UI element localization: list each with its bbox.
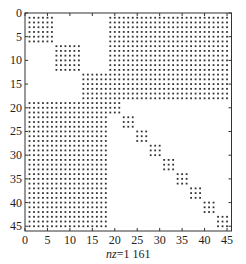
xlabel-prefix: nz bbox=[106, 247, 117, 261]
x-axis-label: nz=1 161 bbox=[106, 247, 150, 261]
x-tick-label: 45 bbox=[221, 233, 233, 247]
y-tick-label: 35 bbox=[10, 172, 22, 186]
y-tick-label: 10 bbox=[10, 53, 22, 67]
y-tick-label: 40 bbox=[10, 196, 22, 210]
border-top-right bbox=[109, 17, 228, 99]
y-tick-label: 15 bbox=[10, 77, 22, 91]
small-diag-7 bbox=[190, 187, 201, 198]
y-tick-label: 25 bbox=[10, 124, 22, 138]
diag-block-2 bbox=[56, 45, 80, 71]
small-diag-4 bbox=[150, 145, 161, 156]
y-tick-label: 45 bbox=[10, 219, 22, 233]
x-tick-label: 15 bbox=[86, 233, 98, 247]
small-diag-2 bbox=[123, 116, 134, 127]
diag-block-3 bbox=[82, 74, 106, 99]
x-tick-label: 5 bbox=[44, 233, 50, 247]
y-tick-label: 20 bbox=[10, 101, 22, 115]
y-tick-label: 30 bbox=[10, 148, 22, 162]
small-diag-6 bbox=[177, 173, 188, 184]
x-tick-label: 10 bbox=[64, 233, 76, 247]
x-tick-label: 40 bbox=[199, 233, 211, 247]
x-tick-label: 25 bbox=[131, 233, 143, 247]
x-tick-label: 20 bbox=[109, 233, 121, 247]
xlabel-value: =1 161 bbox=[117, 247, 151, 261]
x-axis: 051015202530354045 bbox=[22, 13, 233, 247]
diag-block-1 bbox=[29, 17, 53, 42]
small-diag-3 bbox=[136, 131, 147, 142]
x-tick-label: 30 bbox=[154, 233, 166, 247]
sparsity-plot: 051015202530354045 051015202530354045 nz… bbox=[0, 0, 246, 264]
small-diag-1 bbox=[109, 102, 120, 113]
y-axis: 051015202530354045 bbox=[10, 6, 232, 233]
small-diag-9 bbox=[217, 216, 228, 227]
border-bottom-left bbox=[29, 102, 107, 227]
y-tick-label: 0 bbox=[16, 6, 22, 20]
small-diag-8 bbox=[204, 202, 215, 213]
small-diag-5 bbox=[163, 159, 174, 170]
x-tick-label: 0 bbox=[22, 233, 28, 247]
x-tick-label: 35 bbox=[176, 233, 188, 247]
y-tick-label: 5 bbox=[16, 30, 22, 44]
nonzero-markers bbox=[29, 17, 228, 227]
